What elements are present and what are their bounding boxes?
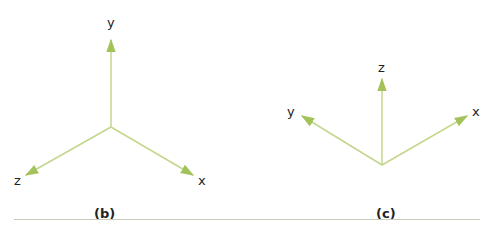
b-x-axis	[111, 127, 193, 175]
c-x-axis	[382, 116, 467, 165]
b-z-label: z	[14, 173, 21, 188]
figure-b-axes	[26, 40, 193, 175]
c-y-axis	[302, 116, 382, 165]
b-z-axis	[26, 127, 111, 175]
b-x-label: x	[198, 173, 206, 188]
b-y-label: y	[107, 15, 115, 30]
divider-line	[14, 219, 480, 220]
c-x-label: x	[472, 104, 480, 119]
axes-diagram	[0, 0, 492, 238]
c-y-label: y	[287, 104, 295, 119]
figure-c-axes	[302, 79, 467, 165]
c-z-label: z	[378, 60, 385, 75]
